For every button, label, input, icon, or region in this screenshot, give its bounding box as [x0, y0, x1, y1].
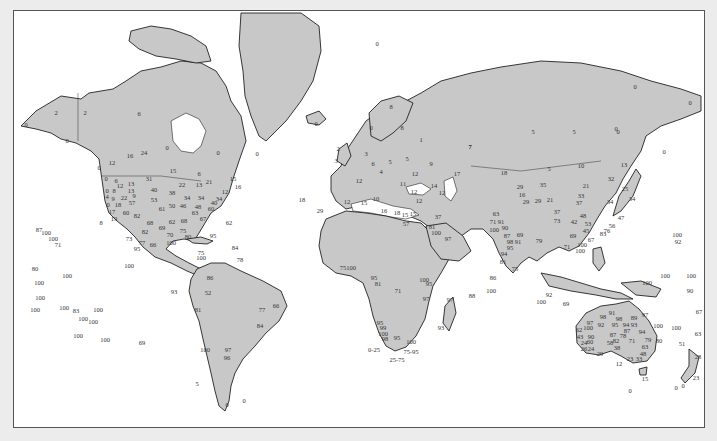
- region-value-label: 34: [607, 199, 614, 206]
- region-value-label: 95: [426, 281, 433, 288]
- region-value-label: 94: [501, 251, 508, 258]
- region-value-label: 4: [105, 194, 108, 201]
- region-value-label: 3: [364, 151, 367, 158]
- region-value-label: 26: [581, 346, 588, 353]
- region-value-label: 71: [55, 242, 62, 249]
- region-value-label: 45: [583, 228, 590, 235]
- region-value-label: 15: [361, 200, 368, 207]
- region-value-label: 69: [570, 233, 577, 240]
- region-value-label: 37: [554, 209, 561, 216]
- region-value-label: 23: [693, 375, 700, 382]
- region-value-label: 34: [216, 196, 223, 203]
- region-value-label: 46: [180, 203, 187, 210]
- region-value-label: 3: [334, 158, 337, 165]
- region-value-label: 5: [388, 159, 391, 166]
- region-value-label: 42: [571, 219, 578, 226]
- region-value-label: 80: [656, 338, 663, 345]
- region-value-label: 63: [192, 210, 199, 217]
- region-value-label: 98: [600, 314, 607, 321]
- region-value-label: 75: [512, 266, 519, 273]
- region-value-label: 100: [583, 325, 593, 332]
- region-value-label: 0: [216, 150, 219, 157]
- map-frame: 2200602416012156006121331221321151612081…: [13, 10, 705, 428]
- region-value-label: 100: [196, 255, 206, 262]
- region-value-label: 95: [210, 233, 217, 240]
- region-value-label: 82: [142, 229, 149, 236]
- region-value-label: 86: [207, 275, 214, 282]
- region-value-label: 100: [653, 323, 663, 330]
- region-value-label: 29: [517, 184, 524, 191]
- region-value-label: 81: [500, 259, 507, 266]
- region-value-label: 5: [547, 166, 550, 173]
- region-value-label: 67: [696, 309, 703, 316]
- region-value-label: 69: [563, 301, 570, 308]
- region-value-label: 0-25: [368, 347, 380, 354]
- region-value-label: 52: [205, 290, 212, 297]
- region-value-label: 100: [62, 273, 72, 280]
- region-value-label: 10: [578, 163, 585, 170]
- region-value-label: 15: [230, 176, 237, 183]
- region-value-label: 71: [490, 219, 497, 226]
- region-value-label: 88: [469, 293, 476, 300]
- region-value-label: 82: [134, 213, 141, 220]
- region-value-label: 37: [576, 200, 583, 207]
- region-value-label: 18: [394, 210, 401, 217]
- region-value-label: 100: [486, 288, 496, 295]
- region-value-label: 0: [225, 402, 228, 409]
- region-value-label: 38: [169, 190, 176, 197]
- region-value-label: 0: [688, 100, 691, 107]
- region-value-label: 53: [151, 197, 158, 204]
- region-value-label: 100: [34, 280, 44, 287]
- region-value-label: 68: [181, 218, 188, 225]
- region-value-label: 100: [671, 325, 681, 332]
- region-value-label: 5: [405, 156, 408, 163]
- region-value-label: 22: [121, 195, 128, 202]
- region-value-label: 32: [608, 176, 615, 183]
- region-value-label: 12: [412, 171, 419, 178]
- region-value-label: 100: [431, 230, 441, 237]
- region-value-label: 5: [195, 381, 198, 388]
- region-value-label: 71: [395, 288, 402, 295]
- region-value-label: 40: [151, 187, 158, 194]
- region-value-label: 12: [109, 160, 116, 167]
- region-value-label: 0: [97, 165, 100, 172]
- region-value-label: 100: [78, 316, 88, 323]
- region-value-label: 91: [609, 310, 616, 317]
- region-value-label: 0: [104, 176, 107, 183]
- region-value-label: 71: [564, 244, 571, 251]
- region-value-label: 86: [490, 275, 497, 282]
- region-value-label: 91: [515, 239, 522, 246]
- region-value-label: 25-75: [389, 357, 404, 364]
- region-value-label: 14: [431, 183, 438, 190]
- region-value-label: 100: [124, 263, 134, 270]
- region-value-label: 100: [35, 295, 45, 302]
- region-value-label: 16: [235, 184, 242, 191]
- region-value-label: 73: [554, 218, 561, 225]
- region-value-label: 28: [695, 354, 702, 361]
- region-value-label: 78: [237, 257, 244, 264]
- region-value-label: 93: [631, 322, 638, 329]
- region-value-label: 100: [93, 307, 103, 314]
- region-value-label: 34: [629, 196, 636, 203]
- region-value-label: 15: [642, 376, 649, 383]
- region-value-label: 92: [598, 322, 605, 329]
- region-value-label: 84: [232, 245, 239, 252]
- region-value-label: 93: [171, 289, 178, 296]
- region-value-label: 79: [536, 238, 543, 245]
- region-value-label: 63: [695, 331, 702, 338]
- region-value-label: 100: [536, 299, 546, 306]
- region-value-label: 29: [523, 199, 530, 206]
- region-value-label: 4: [379, 169, 382, 176]
- region-value-label: 48: [580, 213, 587, 220]
- region-value-label: 60: [208, 206, 215, 213]
- region-value-label: 92: [546, 292, 553, 299]
- region-value-label: 100: [100, 337, 110, 344]
- region-value-label: 70: [167, 232, 174, 239]
- region-value-label: 29: [597, 351, 604, 358]
- region-value-label: 63: [493, 211, 500, 218]
- region-value-label: 47: [618, 215, 625, 222]
- region-value-label: 0: [681, 383, 684, 390]
- region-value-label: 6: [371, 161, 374, 168]
- region-value-label: 100: [686, 273, 696, 280]
- region-value-label: 67: [200, 216, 207, 223]
